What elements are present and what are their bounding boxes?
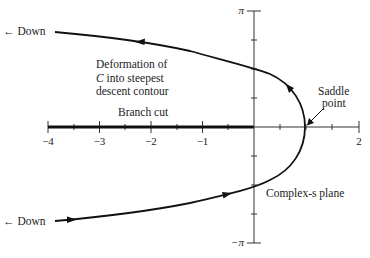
branch-cut-label: Branch cut bbox=[118, 106, 169, 118]
arrow-left-icon bbox=[135, 39, 145, 46]
deformation-note: Deformation of C into steepest descent c… bbox=[96, 58, 169, 97]
x-tick-labels: −4 −3 −2 −1 2 bbox=[42, 135, 362, 147]
saddle-label-line-1: Saddle bbox=[318, 85, 349, 97]
deformation-line-3: descent contour bbox=[96, 85, 169, 97]
down-label-upper: ← Down bbox=[3, 25, 46, 37]
x-tick-label: −1 bbox=[197, 135, 209, 147]
arrow-right-icon bbox=[67, 217, 77, 224]
down-label-lower: ← Down bbox=[3, 215, 46, 227]
saddle-point-pointer bbox=[307, 108, 324, 126]
saddle-label-line-2: point bbox=[322, 97, 346, 110]
deformation-line-2: C into steepest bbox=[96, 72, 165, 85]
arrow-right-icon bbox=[222, 192, 232, 199]
y-axis-bottom-label: −π bbox=[231, 236, 244, 248]
x-tick-label: −4 bbox=[42, 135, 54, 147]
y-axis-top-label: π bbox=[238, 4, 244, 16]
plane-label: Complex-s plane bbox=[266, 187, 344, 200]
deformation-line-2-rest: into steepest bbox=[104, 72, 165, 85]
x-tick-label: −2 bbox=[145, 135, 157, 147]
x-tick-label: 2 bbox=[356, 135, 362, 147]
x-tick-label: −3 bbox=[94, 135, 106, 147]
diagram-canvas: −4 −3 −2 −1 2 π −π bbox=[0, 0, 370, 258]
deformation-line-1: Deformation of bbox=[96, 58, 167, 70]
